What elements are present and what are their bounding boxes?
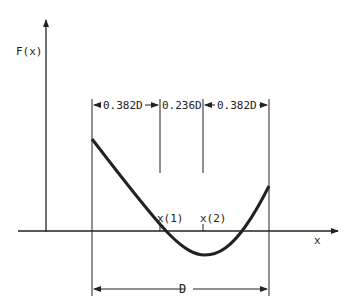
segment-label-2: 0.236D — [162, 99, 202, 112]
segment-label-1: 0.382D — [103, 99, 143, 112]
y-axis-label: F(x) — [16, 45, 43, 58]
point-label-x2: x(2) — [200, 212, 227, 225]
function-curve — [92, 139, 269, 255]
segment-label-3: 0.382D — [217, 99, 257, 112]
x-axis-label: x — [314, 234, 321, 247]
golden-section-diagram: F(x) x 0.382D 0.236D 0.382D x(1) x(2) D — [0, 0, 353, 307]
interval-label: D — [179, 282, 186, 296]
point-label-x1: x(1) — [157, 212, 184, 225]
